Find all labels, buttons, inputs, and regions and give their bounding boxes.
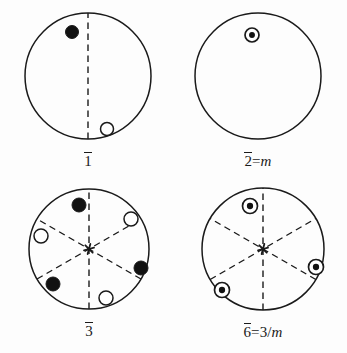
open-circle-lower-hemisphere — [34, 229, 48, 243]
one-bar-projection-svg — [13, 1, 163, 151]
label-numeral-overlined: 2 — [244, 152, 252, 169]
three-bar-projection-svg — [17, 177, 161, 321]
symmetry-figure: 12=m36=3/m — [0, 0, 347, 353]
open-circle-lower-hemisphere — [124, 212, 138, 226]
label-numeral-overlined: 3 — [85, 322, 93, 339]
two-bar-equals-m-stereogram — [183, 1, 333, 151]
label-suffix-italic: m — [272, 324, 283, 340]
open-circle-lower-hemisphere — [99, 291, 113, 305]
six-bar-equals-three-over-m-label: 6=3/m — [244, 323, 283, 341]
superposed-inner-dot — [219, 287, 225, 293]
filled-dot-upper-hemisphere — [46, 277, 60, 291]
one-bar-stereogram — [13, 1, 163, 151]
panel-2bar: 2=m — [183, 1, 333, 170]
star-core — [261, 247, 264, 250]
superposed-inner-dot — [313, 264, 319, 270]
label-numeral-overlined: 1 — [84, 152, 92, 169]
three-bar-stereogram — [17, 177, 161, 321]
superposed-inner-dot — [249, 32, 255, 38]
filled-dot-upper-hemisphere — [66, 26, 79, 39]
panel-1bar: 1 — [13, 1, 163, 170]
open-circle-lower-hemisphere — [101, 123, 114, 136]
label-suffix-italic: m — [261, 153, 272, 169]
panel-6bar: 6=3/m — [190, 176, 336, 341]
label-numeral-overlined: 6 — [244, 323, 252, 340]
dot-in-circle-superposed-pair — [243, 199, 258, 214]
six-bar-equals-three-over-m-projection-svg — [190, 176, 336, 322]
two-bar-equals-m-projection-svg — [183, 1, 333, 151]
label-suffix: =3/ — [251, 324, 271, 340]
star-core — [87, 247, 90, 250]
filled-dot-upper-hemisphere — [72, 198, 86, 212]
panel-3bar: 3 — [17, 177, 161, 340]
dot-in-circle-superposed-pair — [245, 28, 259, 42]
label-suffix: = — [252, 153, 261, 169]
dot-in-circle-superposed-pair — [309, 260, 324, 275]
one-bar-label: 1 — [84, 152, 92, 170]
filled-dot-upper-hemisphere — [134, 261, 148, 275]
projection-outer-circle — [25, 13, 151, 139]
dot-in-circle-superposed-pair — [215, 283, 230, 298]
two-bar-equals-m-label: 2=m — [244, 152, 271, 170]
three-bar-label: 3 — [85, 322, 93, 340]
six-bar-equals-three-over-m-stereogram — [190, 176, 336, 322]
superposed-inner-dot — [247, 203, 253, 209]
